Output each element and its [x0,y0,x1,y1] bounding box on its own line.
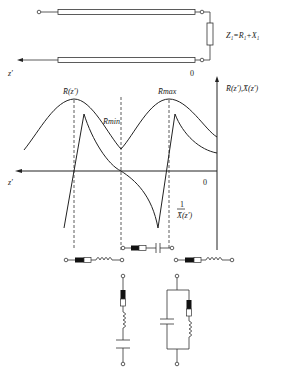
load-terminal-bottom [200,58,204,62]
inductor-icon [96,258,112,261]
load-impedance-label: Z₁=R₁+X₁ [226,31,260,40]
input-terminal-top [37,10,41,14]
resistor-icon [187,300,192,309]
y-axis-label: R̄(z′),X̄(z′) [225,84,258,93]
resistor-icon [185,258,194,263]
resistor-icon [121,290,126,299]
inductor-icon [123,312,126,328]
parallel-c-rl-circuit [160,274,192,366]
impedance-graph: R̄(z′),X̄(z′) z′ 0 R̄(z′) R̄max R̄min 1 … [7,76,258,250]
line-z-axis-label: z′ [7,69,13,78]
series-rl-right-circuit [174,258,234,263]
transmission-line: Z₁=R₁+X₁ z′ 0 [7,10,260,79]
resistor-icon [131,246,139,251]
inductor-icon [189,321,192,337]
load-impedance [207,23,213,45]
y-axis-arrow-icon [215,76,219,82]
diagram-canvas: Z₁=R₁+X₁ z′ 0 R̄(z′),X̄(z′) z′ 0 R̄(z′) … [0,0,285,379]
top-conductor [58,10,195,15]
x-curve-label-num: 1 [180,200,184,209]
x-curve-label-den: X̄(z′) [176,211,192,220]
load-terminal-top [200,10,204,14]
z-axis-arrow-icon [17,58,23,62]
r-min-label: R̄min [102,117,120,126]
x-axis-label: z′ [7,178,13,187]
series-rlc-vertical-circuit [116,274,130,366]
inductor-icon [206,258,222,261]
r-max-label: R̄max [157,87,177,96]
bottom-conductor [58,58,195,63]
series-rc-circuit [121,243,174,253]
resistor-icon [75,258,84,263]
graph-origin-label: 0 [203,178,207,187]
x-axis-arrow-icon [15,169,22,173]
series-rl-left-circuit [64,258,124,263]
line-origin-label: 0 [190,69,194,78]
r-curve-label: R̄(z′) [62,87,78,96]
r-curve [24,99,217,150]
